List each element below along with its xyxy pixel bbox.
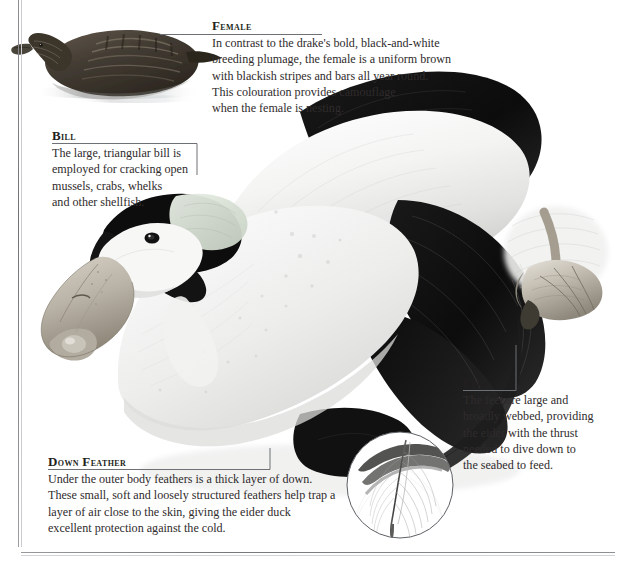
webbed-foot-illustration	[504, 206, 608, 329]
annotation-bill-body: The large, triangular bill is employed f…	[52, 145, 222, 210]
annotation-female-title: Female	[212, 18, 452, 34]
annotation-feet-body: The feet are large and broadly webbed, p…	[463, 392, 618, 473]
annotation-bill: Bill The large, triangular bill is emplo…	[52, 128, 222, 210]
annotation-female-body: In contrast to the drake's bold, black-a…	[212, 35, 452, 116]
annotation-down-feather-title: Down feather	[48, 454, 358, 470]
page-border-left	[18, 0, 19, 547]
annotation-down-feather: Down feather Under the outer body feathe…	[48, 454, 358, 536]
down-feather-illustration	[345, 430, 455, 540]
illustration-plate: Female In contrast to the drake's bold, …	[0, 0, 623, 565]
annotation-feet-title: Feet	[463, 375, 618, 391]
page-border-left-inner	[21, 0, 22, 547]
annotation-female: Female In contrast to the drake's bold, …	[212, 18, 452, 116]
page-border-bottom-inner	[21, 555, 615, 556]
page-border-bottom	[21, 552, 615, 553]
annotation-feet: Feet The feet are large and broadly webb…	[463, 375, 618, 473]
annotation-bill-title: Bill	[52, 128, 222, 144]
eye	[145, 233, 160, 244]
annotation-down-feather-body: Under the outer body feathers is a thick…	[48, 471, 358, 536]
female-eider-illustration	[11, 30, 222, 103]
